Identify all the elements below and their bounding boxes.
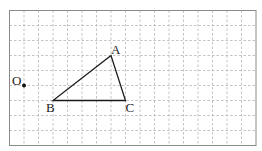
label-point-a: A	[111, 42, 121, 57]
grid-border	[10, 11, 257, 146]
triangle-abc	[53, 56, 126, 101]
grid-diagram: O A B C	[0, 0, 262, 151]
point-o-dot	[22, 84, 26, 88]
label-point-o: O	[12, 73, 21, 88]
label-point-b: B	[46, 100, 55, 115]
label-point-c: C	[126, 100, 135, 115]
grid-lines	[10, 11, 257, 146]
